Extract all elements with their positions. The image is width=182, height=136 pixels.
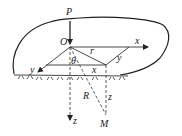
x-axis-label: x: [134, 35, 140, 46]
y-axis: [38, 47, 70, 72]
half-space-diagram: P O x y z r θ y x z R M: [0, 0, 182, 136]
ground-line: [14, 75, 128, 76]
y-component-label: y: [116, 52, 122, 63]
load-label: P: [65, 6, 72, 17]
point-M-label: M: [99, 118, 109, 129]
origin-label: O: [60, 36, 67, 47]
R-label: R: [82, 90, 89, 101]
r-label: r: [90, 45, 94, 56]
R-line: [70, 47, 106, 115]
ground-hatching: [18, 76, 125, 80]
y-axis-label: y: [29, 64, 35, 75]
z-component-label: z: [107, 91, 112, 102]
z-axis-label: z: [72, 115, 77, 126]
x-component-label: x: [91, 64, 97, 75]
